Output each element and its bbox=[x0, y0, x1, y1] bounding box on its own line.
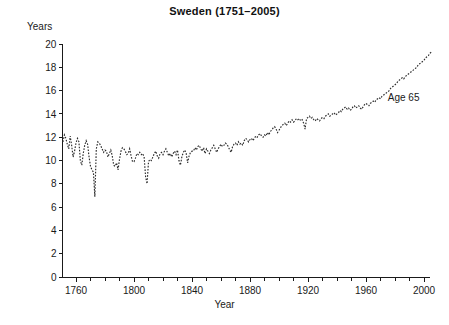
y-tick-label: 6 bbox=[51, 202, 57, 213]
y-tick-label: 20 bbox=[45, 39, 57, 50]
y-tick-label: 16 bbox=[45, 85, 57, 96]
x-tick-label: 1920 bbox=[297, 285, 320, 296]
x-tick-label: 2000 bbox=[413, 285, 436, 296]
y-tick-label: 18 bbox=[45, 62, 57, 73]
y-axis: 02468101214161820 bbox=[45, 39, 62, 283]
plot-area: 02468101214161820 1760180018401880192019… bbox=[0, 0, 449, 325]
y-tick-label: 8 bbox=[51, 178, 57, 189]
y-tick-label: 14 bbox=[45, 109, 57, 120]
y-tick-label: 10 bbox=[45, 155, 57, 166]
x-tick-label: 1960 bbox=[355, 285, 378, 296]
x-tick-label: 1760 bbox=[65, 285, 88, 296]
data-series-group bbox=[63, 52, 431, 196]
x-tick-label: 1840 bbox=[181, 285, 204, 296]
chart-container: Sweden (1751–2005) Years Year Age 65 024… bbox=[0, 0, 449, 325]
y-tick-label: 12 bbox=[45, 132, 57, 143]
series-line-1 bbox=[63, 52, 431, 196]
x-tick-label: 1880 bbox=[239, 285, 262, 296]
y-tick-label: 0 bbox=[51, 272, 57, 283]
x-tick-label: 1800 bbox=[123, 285, 146, 296]
y-tick-label: 4 bbox=[51, 225, 57, 236]
y-tick-label: 2 bbox=[51, 248, 57, 259]
x-axis: 1760180018401880192019602000 bbox=[62, 278, 435, 296]
